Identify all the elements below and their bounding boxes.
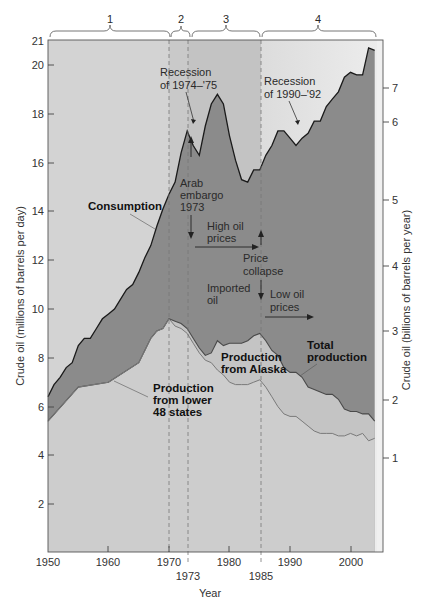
imported-oil-label: Imported	[207, 282, 250, 294]
x-tick-1985: 1985	[249, 570, 273, 582]
price-collapse-label-2: collapse	[243, 265, 283, 277]
recession-1990-label: Recession	[264, 75, 315, 87]
high-oil-prices-label-2: prices	[207, 232, 237, 244]
r-tick-2: 2	[392, 394, 398, 406]
r-tick-5: 5	[392, 194, 398, 206]
y-tick-2: 2	[38, 498, 44, 510]
r-tick-7: 7	[392, 82, 398, 94]
y-tick-8: 8	[38, 352, 44, 364]
lower48-production-label-3: 48 states	[153, 406, 202, 418]
recession-1974-label: Recession	[160, 66, 211, 78]
right-strip	[377, 40, 383, 552]
x-tick-1960: 1960	[96, 556, 120, 568]
recession-1990-label-2: of 1990–'92	[264, 88, 321, 100]
y-tick-6: 6	[38, 401, 44, 413]
arab-embargo-label-3: 1973	[180, 201, 204, 213]
y-tick-21: 21	[32, 35, 44, 47]
y-axis-title-left: Crude oil (millions of barrels per day)	[14, 206, 26, 386]
period-3-label: 3	[223, 13, 229, 25]
arab-embargo-label-2: embargo	[180, 189, 223, 201]
r-tick-3: 3	[392, 325, 398, 337]
lower48-production-label: Production	[153, 382, 214, 394]
y-tick-16: 16	[32, 157, 44, 169]
x-tick-1970: 1970	[157, 556, 181, 568]
x-tick-1980: 1980	[217, 556, 241, 568]
period-2-label: 2	[178, 13, 184, 25]
recession-1974-label-2: of 1974–'75	[160, 79, 217, 91]
x-tick-2000: 2000	[339, 556, 363, 568]
x-tick-1950: 1950	[36, 556, 60, 568]
period-4-label: 4	[315, 13, 321, 25]
right-y-axis	[383, 88, 389, 458]
y-tick-20: 20	[32, 59, 44, 71]
x-tick-1990: 1990	[278, 556, 302, 568]
period-braces	[50, 25, 376, 37]
y-tick-12: 12	[32, 254, 44, 266]
y-tick-10: 10	[32, 303, 44, 315]
imported-oil-label-2: oil	[207, 294, 218, 306]
x-tick-1973: 1973	[176, 570, 200, 582]
y-tick-14: 14	[32, 205, 44, 217]
price-collapse-label: Price	[243, 252, 268, 264]
r-tick-6: 6	[392, 116, 398, 128]
consumption-label: Consumption	[88, 200, 162, 212]
y-axis-title-right: Crude oil (billions of barrels per year)	[400, 210, 412, 390]
x-axis-title: Year	[199, 587, 222, 599]
low-oil-prices-label: Low oil	[270, 288, 304, 300]
period-1-label: 1	[107, 13, 113, 25]
low-oil-prices-label-2: prices	[270, 301, 300, 313]
r-tick-4: 4	[392, 260, 398, 272]
y-tick-4: 4	[38, 449, 44, 461]
arab-embargo-label: Arab	[180, 177, 203, 189]
high-oil-prices-label: High oil	[207, 220, 244, 232]
lower48-production-label-2: from lower	[153, 394, 212, 406]
y-tick-18: 18	[32, 108, 44, 120]
alaska-production-label: Production	[221, 351, 282, 363]
r-tick-1: 1	[392, 452, 398, 464]
oil-chart: 1 2 3 4 2 4 6 8 10 12 14 16 18 20 21 Cru…	[0, 0, 423, 610]
alaska-production-label-2: from Alaska	[221, 363, 287, 375]
total-production-label: Total	[307, 339, 334, 351]
total-production-label-2: production	[307, 351, 367, 363]
